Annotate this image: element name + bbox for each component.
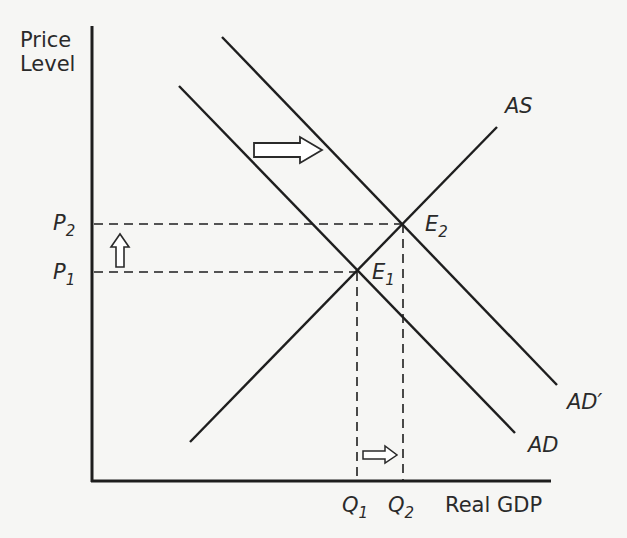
p1-sub: 1 bbox=[66, 271, 76, 289]
as-label: AS bbox=[505, 96, 533, 117]
p2-letter: P bbox=[53, 211, 66, 235]
y-axis-label: Price Level bbox=[20, 28, 75, 76]
e1-sub: 1 bbox=[385, 271, 395, 289]
y-axis-label-line2: Level bbox=[20, 52, 75, 76]
e2-letter: E bbox=[425, 212, 438, 236]
p2-label: P2 bbox=[53, 213, 75, 234]
ad-as-diagram bbox=[0, 0, 627, 538]
p1-label: P1 bbox=[53, 262, 75, 283]
q2-sub: 2 bbox=[405, 504, 415, 522]
output-increase-arrow-icon bbox=[363, 446, 397, 463]
x-axis-label: Real GDP bbox=[445, 495, 542, 516]
e2-label: E2 bbox=[425, 214, 448, 235]
p2-sub: 2 bbox=[66, 222, 76, 240]
e1-label: E1 bbox=[372, 262, 395, 283]
e1-letter: E bbox=[372, 260, 385, 284]
ad-prime-label: AD′ bbox=[567, 392, 602, 413]
dashed-guides bbox=[94, 224, 403, 480]
e2-sub: 2 bbox=[438, 223, 448, 241]
q2-letter: Q bbox=[388, 493, 405, 517]
price-increase-arrow-icon bbox=[111, 234, 129, 267]
demand-shift-arrow-icon bbox=[254, 137, 322, 163]
q1-sub: 1 bbox=[359, 504, 369, 522]
as-curve bbox=[190, 127, 497, 442]
ad-label: AD bbox=[528, 435, 559, 456]
p1-letter: P bbox=[53, 260, 66, 284]
q2-label: Q2 bbox=[388, 495, 414, 516]
y-axis-label-line1: Price bbox=[20, 28, 75, 52]
ad-curve bbox=[179, 86, 515, 433]
q1-label: Q1 bbox=[342, 495, 368, 516]
q1-letter: Q bbox=[342, 493, 359, 517]
ad-prime-curve bbox=[222, 37, 557, 385]
